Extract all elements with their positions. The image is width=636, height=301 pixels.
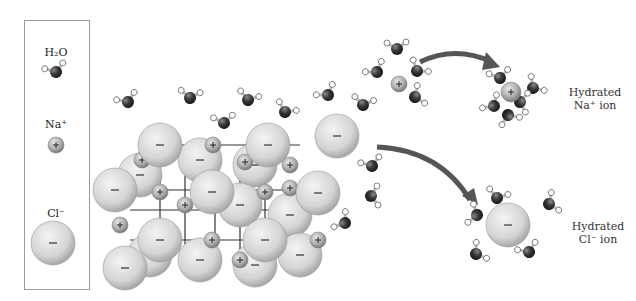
hydrated-cl-caption: Hydrated Cl⁻ ion [563,220,633,246]
free-chloride-ion [315,114,359,158]
hydrated-na-caption-line1: Hydrated [560,86,630,99]
legend-water-icon [41,59,69,81]
legend-chloride-label: Cl⁻ [24,207,88,220]
hydrated-sodium-ion [478,66,549,128]
arrow-to-hydrated-na [420,52,500,70]
legend-sodium-icon [48,137,64,153]
hydrated-na-caption-line2: Na⁺ ion [560,99,630,112]
arrow-to-hydrated-cl [377,147,478,205]
legend-water-label: H₂O [24,46,88,59]
hydrated-cl-caption-line1: Hydrated [563,220,633,233]
hydrated-na-caption: Hydrated Na⁺ ion [560,86,630,112]
hydrated-chloride-ion [463,184,562,267]
hydrated-cl-caption-line2: Cl⁻ ion [563,233,633,246]
dissociating-sodium-ion [391,76,407,92]
crystal-lattice [93,123,340,290]
legend-sodium-label: Na⁺ [24,118,88,131]
legend-chloride-icon [31,221,75,265]
dissolution-diagram [0,0,636,301]
